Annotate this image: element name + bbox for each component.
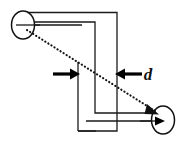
dotted-sight-line xyxy=(27,30,155,111)
diagram-canvas: d xyxy=(0,0,181,147)
tube-diagram: d xyxy=(0,0,181,147)
distance-label-d: d xyxy=(144,65,153,84)
inner-tube-wall xyxy=(23,22,163,113)
